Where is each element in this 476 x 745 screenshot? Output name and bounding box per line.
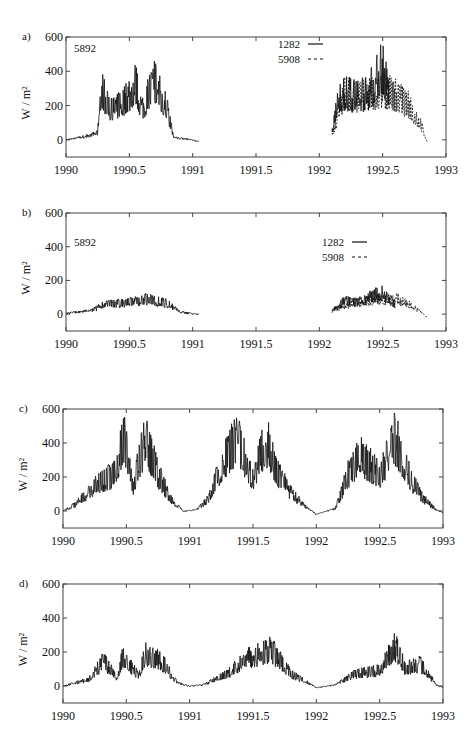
x-tick-label: 1990 [51, 534, 75, 548]
station-annotation: 5892 [74, 236, 96, 248]
x-tick-label: 1990.5 [113, 337, 146, 351]
chart-panel-c: c)W / m²020040060019901990.519911991.519… [16, 402, 455, 548]
y-axis-label: W / m² [16, 632, 30, 666]
series-line-series [63, 413, 443, 515]
x-tick-label: 1991 [181, 337, 205, 351]
x-tick-label: 1991.5 [240, 337, 273, 351]
chart-panel-d: d)W / m²020040060019901990.519911991.519… [16, 577, 455, 723]
legend-label-dashed: 5908 [278, 53, 301, 65]
y-tick-label: 200 [42, 470, 60, 484]
chart-panel-a: a)W / m²020040060019901990.519911991.519… [19, 30, 458, 177]
x-tick-label: 1990.5 [110, 534, 143, 548]
x-tick-label: 1991.5 [237, 709, 270, 723]
x-tick-label: 1992 [304, 534, 328, 548]
y-tick-label: 600 [45, 30, 63, 44]
x-tick-label: 1991.5 [240, 163, 273, 177]
series-line-5892 [66, 61, 199, 142]
y-tick-label: 200 [42, 645, 60, 659]
y-tick-label: 400 [42, 611, 60, 625]
x-tick-label: 1992.5 [366, 163, 399, 177]
x-tick-label: 1992.5 [363, 709, 396, 723]
legend-label-solid: 1282 [278, 38, 300, 50]
x-tick-label: 1990.5 [113, 163, 146, 177]
panel-label: b) [22, 206, 32, 219]
x-tick-label: 1993 [431, 709, 455, 723]
x-tick-label: 1993 [431, 534, 455, 548]
x-tick-label: 1992.5 [363, 534, 396, 548]
x-tick-label: 1990 [51, 709, 75, 723]
plot-frame [63, 584, 443, 703]
y-tick-label: 200 [45, 99, 63, 113]
panel-label: c) [19, 402, 28, 415]
legend-label-solid: 1282 [322, 236, 344, 248]
y-tick-label: 0 [57, 307, 63, 321]
y-tick-label: 200 [45, 273, 63, 287]
series-line-1282 [332, 45, 389, 132]
x-tick-label: 1991 [178, 534, 202, 548]
x-tick-label: 1990 [54, 163, 78, 177]
y-tick-label: 0 [54, 504, 60, 518]
x-tick-label: 1990.5 [110, 709, 143, 723]
chart-panel-b: b)W / m²020040060019901990.519911991.519… [19, 206, 458, 351]
y-tick-label: 0 [54, 679, 60, 693]
y-tick-label: 600 [42, 577, 60, 591]
series-line-5892 [66, 293, 199, 315]
panel-label: d) [19, 577, 29, 590]
x-tick-label: 1990 [54, 337, 78, 351]
y-axis-label: W / m² [19, 261, 33, 295]
plot-frame [66, 213, 446, 331]
x-tick-label: 1992.5 [366, 337, 399, 351]
figure: a)W / m²020040060019901990.519911991.519… [0, 0, 476, 745]
x-tick-label: 1993 [434, 337, 458, 351]
y-axis-label: W / m² [19, 86, 33, 120]
x-tick-label: 1992 [307, 163, 331, 177]
y-tick-label: 600 [45, 206, 63, 220]
panel-label: a) [22, 30, 31, 43]
y-tick-label: 400 [45, 64, 63, 78]
x-tick-label: 1992 [307, 337, 331, 351]
legend-label-dashed: 5908 [322, 251, 345, 263]
y-tick-label: 0 [57, 133, 63, 147]
station-annotation: 5892 [74, 42, 96, 54]
y-tick-label: 400 [45, 240, 63, 254]
x-tick-label: 1991 [181, 163, 205, 177]
x-tick-label: 1991.5 [237, 534, 270, 548]
y-tick-label: 600 [42, 402, 60, 416]
x-tick-label: 1992 [304, 709, 328, 723]
plot-frame [63, 409, 443, 528]
x-tick-label: 1993 [434, 163, 458, 177]
y-tick-label: 400 [42, 436, 60, 450]
y-axis-label: W / m² [16, 457, 30, 491]
series-line-series [63, 633, 443, 688]
x-tick-label: 1991 [178, 709, 202, 723]
